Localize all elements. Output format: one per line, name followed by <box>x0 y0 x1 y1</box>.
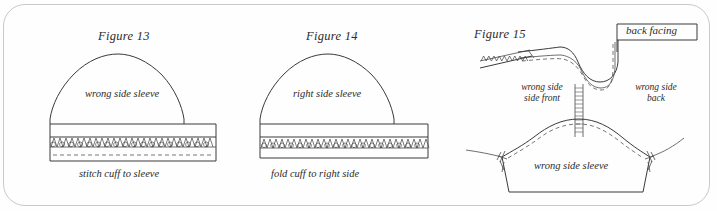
left-panel-label: wrong side side front <box>496 82 588 103</box>
figure-14: Figure 14 right side sleeve fold cuff to… <box>232 0 472 211</box>
figure-15-sleeve-label: wrong side sleeve <box>534 160 608 172</box>
strap-upper-edge <box>480 50 530 61</box>
figure-14-inner-label: right side sleeve <box>293 88 361 100</box>
serged-stitch-row <box>51 138 213 147</box>
side-seam-left <box>466 150 502 157</box>
sleeve-left-edge <box>502 157 509 192</box>
figure-15-drawing <box>460 0 717 211</box>
side-seam-right <box>650 138 684 157</box>
right-panel-line2: back <box>610 93 702 104</box>
sleeve-cap-outline <box>502 119 650 157</box>
figure-15: Figure 15 <box>460 0 717 211</box>
figure-14-caption: fold cuff to right side <box>271 168 359 180</box>
serged-stitch-row <box>261 139 429 148</box>
right-panel-line1: wrong side <box>610 82 702 93</box>
left-panel-line2: side front <box>496 93 588 104</box>
left-panel-line1: wrong side <box>496 82 588 93</box>
sleeve-right-edge <box>643 157 650 192</box>
figure-13: Figure 13 wrong side sleeve stitch cuff … <box>0 0 240 211</box>
back-facing-label: back facing <box>626 24 677 36</box>
figure-13-inner-label: wrong side sleeve <box>85 88 159 100</box>
right-panel-label: wrong side back <box>610 82 702 103</box>
neckline-outer-curve <box>518 40 618 82</box>
figure-13-caption: stitch cuff to sleeve <box>79 168 159 180</box>
illustration-sheet: Figure 13 wrong side sleeve stitch cuff … <box>0 0 717 211</box>
